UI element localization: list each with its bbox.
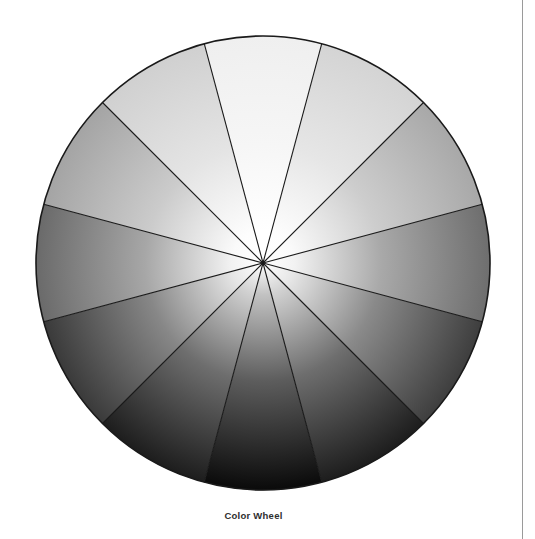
color-wheel-figure bbox=[0, 0, 535, 539]
color-wheel-graphic bbox=[0, 0, 535, 539]
figure-caption: Color Wheel bbox=[0, 510, 507, 521]
document-page: Color Wheel bbox=[0, 0, 535, 539]
page-margin-rule bbox=[522, 0, 523, 539]
